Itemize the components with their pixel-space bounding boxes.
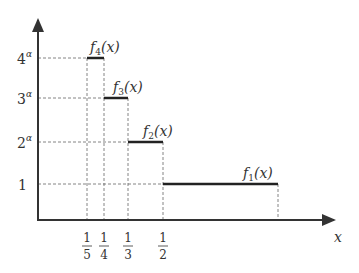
- y-tick-2a: 2α: [17, 133, 32, 151]
- f2-label: f2(x): [142, 123, 173, 141]
- horizontal-guides: [38, 58, 163, 184]
- y-tick-1: 1: [18, 177, 27, 193]
- x-tick-1-5: 1 5: [82, 231, 92, 262]
- y-tick-labels: 4α 3α 2α 1: [17, 49, 32, 193]
- f4-label: f4(x): [89, 39, 120, 57]
- svg-text:2: 2: [159, 248, 167, 262]
- f3-label: f3(x): [112, 79, 143, 97]
- y-tick-4a: 4α: [17, 49, 32, 67]
- svg-text:4: 4: [100, 248, 108, 262]
- x-tick-labels: 1 5 1 4 1 3 1 2: [82, 231, 168, 262]
- step-segments: [87, 58, 278, 184]
- svg-text:5: 5: [83, 248, 91, 262]
- step-function-diagram: 4α 3α 2α 1 1 5 1 4 1 3 1 2 x f4(x) f3(: [0, 0, 359, 273]
- x-tick-1-4: 1 4: [99, 231, 109, 262]
- svg-text:3: 3: [124, 248, 132, 262]
- x-tick-1-3: 1 3: [123, 231, 133, 262]
- f1-label: f1(x): [242, 165, 273, 183]
- x-tick-1-2: 1 2: [158, 231, 168, 262]
- y-tick-3a: 3α: [17, 89, 32, 107]
- function-labels: f4(x) f3(x) f2(x) f1(x): [89, 39, 273, 183]
- svg-text:1: 1: [83, 231, 91, 245]
- svg-text:1: 1: [124, 231, 132, 245]
- svg-text:1: 1: [159, 231, 167, 245]
- svg-text:1: 1: [100, 231, 108, 245]
- x-axis-label: x: [334, 229, 342, 245]
